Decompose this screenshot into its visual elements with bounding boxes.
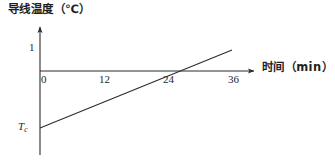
temperature-line: [40, 50, 232, 128]
x-axis-title: 时间（min）: [262, 62, 333, 74]
y-axis-title: 导线温度（℃）: [8, 4, 91, 16]
y-tick-label-1: 1: [29, 42, 35, 53]
chart-figure: 导线温度（℃） 时间（min） 0 12 24 36 1 Tc: [0, 0, 335, 163]
initial-temperature-subscript: c: [24, 125, 27, 134]
x-tick-label-12: 12: [99, 74, 110, 85]
x-tick-label-36: 36: [228, 74, 239, 85]
x-tick-label-24: 24: [163, 74, 174, 85]
x-tick-label-0: 0: [41, 74, 47, 85]
initial-temperature-label: Tc: [18, 121, 27, 133]
